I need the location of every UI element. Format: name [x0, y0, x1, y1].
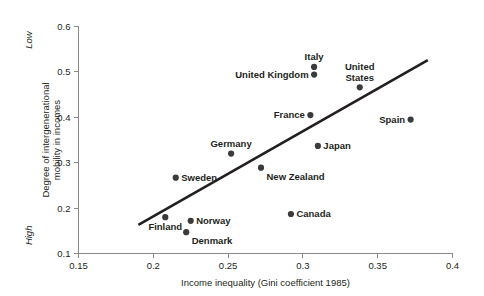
- x-tick-label-5: 0.4: [446, 260, 459, 271]
- y-tick-label-0: 0.1: [57, 248, 70, 259]
- data-label-united-states: UnitedStates: [345, 61, 375, 83]
- data-label-norway: Norway: [196, 215, 231, 226]
- data-point-finland[interactable]: [162, 214, 168, 220]
- x-tick-label-0: 0.15: [69, 260, 88, 271]
- x-axis-title: Income inequality (Gini coefficient 1985…: [181, 277, 350, 288]
- scatter-plot: 0.150.20.250.30.350.40.10.20.30.40.50.6 …: [0, 0, 484, 296]
- y-tick-label-4: 0.5: [57, 66, 70, 77]
- data-label-germany: Germany: [210, 138, 252, 149]
- data-label-italy: Italy: [305, 51, 325, 62]
- regression-line: [138, 60, 427, 225]
- x-tick-label-3: 0.3: [296, 260, 309, 271]
- axis-ticks: [74, 27, 453, 259]
- y-axis-title: Degree of intergenerationalmobility in i…: [40, 82, 62, 197]
- trend-line-group: [138, 60, 427, 225]
- data-point-united-kingdom[interactable]: [311, 72, 317, 78]
- y-tick-label-5: 0.6: [57, 21, 70, 32]
- data-label-new-zealand: New Zealand: [267, 171, 325, 182]
- axis-tick-labels: 0.150.20.250.30.350.40.10.20.30.40.50.6: [57, 21, 459, 271]
- data-point-japan[interactable]: [315, 143, 321, 149]
- data-points-group: SwedenFinlandNorwayDenmarkGermanyNew Zea…: [148, 51, 413, 246]
- data-point-united-states[interactable]: [357, 84, 363, 90]
- data-point-new-zealand[interactable]: [258, 165, 264, 171]
- data-point-sweden[interactable]: [173, 175, 179, 181]
- axis-spine: [79, 27, 453, 254]
- data-point-norway[interactable]: [188, 218, 194, 224]
- data-point-italy[interactable]: [311, 64, 317, 70]
- data-point-germany[interactable]: [228, 151, 234, 157]
- data-label-united-kingdom: United Kingdom: [235, 69, 308, 80]
- axes: [79, 27, 453, 254]
- data-label-sweden: Sweden: [181, 172, 217, 183]
- data-label-finland: Finland: [148, 221, 182, 232]
- data-label-canada: Canada: [296, 208, 331, 219]
- data-point-canada[interactable]: [288, 211, 294, 217]
- data-label-japan: Japan: [323, 140, 351, 151]
- data-label-france: France: [274, 109, 305, 120]
- x-tick-label-4: 0.35: [368, 260, 387, 271]
- data-point-france[interactable]: [307, 112, 313, 118]
- low-annotation: Low: [23, 30, 34, 49]
- axis-annotations: LowHigh: [23, 30, 34, 245]
- data-point-denmark[interactable]: [183, 229, 189, 235]
- data-point-spain[interactable]: [408, 116, 414, 122]
- high-annotation: High: [23, 226, 34, 246]
- y-tick-label-1: 0.2: [57, 203, 70, 214]
- data-label-spain: Spain: [379, 114, 405, 125]
- chart-figure: 0.150.20.250.30.350.40.10.20.30.40.50.6 …: [0, 0, 484, 296]
- x-tick-label-1: 0.2: [147, 260, 160, 271]
- data-label-denmark: Denmark: [192, 235, 233, 246]
- x-tick-label-2: 0.25: [219, 260, 238, 271]
